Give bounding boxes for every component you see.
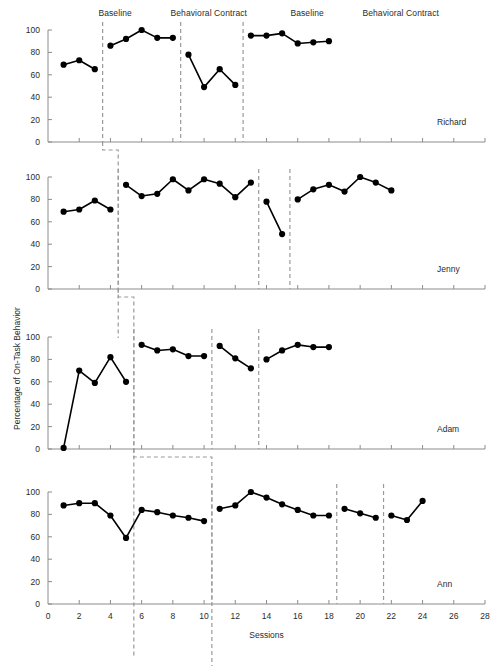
data-point xyxy=(295,196,301,202)
data-point xyxy=(388,187,394,193)
y-tick-label: 60 xyxy=(14,70,40,80)
data-line-adam-seg1 xyxy=(64,357,126,448)
data-point xyxy=(154,191,160,197)
data-point xyxy=(92,500,98,506)
data-point xyxy=(185,515,191,521)
phase-label-1: Baseline xyxy=(98,8,131,18)
data-point xyxy=(201,518,207,524)
x-tick-label: 6 xyxy=(132,611,152,621)
data-point xyxy=(154,35,160,41)
data-point xyxy=(295,342,301,348)
y-tick-label: 80 xyxy=(14,194,40,204)
data-point xyxy=(357,510,363,516)
data-point xyxy=(217,343,223,349)
data-point xyxy=(357,174,363,180)
phase-stagger-connector-1 xyxy=(103,142,119,338)
x-tick-label: 2 xyxy=(69,611,89,621)
y-tick-label: 80 xyxy=(14,509,40,519)
data-point xyxy=(123,182,129,188)
y-tick-label: 20 xyxy=(14,262,40,272)
data-point xyxy=(76,206,82,212)
data-point xyxy=(419,498,425,504)
data-point xyxy=(123,535,129,541)
data-point xyxy=(76,57,82,63)
data-point xyxy=(388,512,394,518)
data-point xyxy=(232,355,238,361)
data-point xyxy=(123,379,129,385)
data-line-jenny-seg3 xyxy=(267,202,283,234)
data-point xyxy=(92,66,98,72)
data-point xyxy=(279,231,285,237)
data-point xyxy=(295,40,301,46)
data-point xyxy=(170,512,176,518)
data-point xyxy=(248,180,254,186)
data-point xyxy=(232,194,238,200)
data-point xyxy=(217,506,223,512)
phase-label-3: Baseline xyxy=(290,8,323,18)
data-point xyxy=(373,515,379,521)
data-point xyxy=(232,82,238,88)
x-tick-label: 22 xyxy=(381,611,401,621)
data-point xyxy=(310,512,316,518)
chart-canvas xyxy=(0,0,499,666)
y-axis-title: Percentage of On-Task Behavior xyxy=(12,307,22,430)
y-tick-label: 40 xyxy=(14,239,40,249)
phase-label-2: Behavioral Contract xyxy=(170,8,247,18)
data-point xyxy=(201,176,207,182)
data-point xyxy=(263,33,269,39)
data-point xyxy=(92,197,98,203)
x-tick-label: 20 xyxy=(350,611,370,621)
data-point xyxy=(170,35,176,41)
data-point xyxy=(185,187,191,193)
data-point xyxy=(279,501,285,507)
data-point xyxy=(263,495,269,501)
data-point xyxy=(263,199,269,205)
x-tick-label: 8 xyxy=(163,611,183,621)
phase-label-4: Behavioral Contract xyxy=(362,8,439,18)
data-point xyxy=(310,186,316,192)
data-point xyxy=(248,489,254,495)
data-point xyxy=(326,38,332,44)
subject-label-adam: Adam xyxy=(437,424,459,434)
data-point xyxy=(185,353,191,359)
data-point xyxy=(248,365,254,371)
y-tick-label: 0 xyxy=(14,284,40,294)
data-point xyxy=(107,206,113,212)
multiple-baseline-chart: 020406080100Richard020406080100Jenny0204… xyxy=(0,0,499,666)
data-point xyxy=(404,517,410,523)
data-point xyxy=(232,502,238,508)
data-point xyxy=(61,62,67,68)
y-tick-label: 80 xyxy=(14,47,40,57)
x-tick-label: 10 xyxy=(194,611,214,621)
data-point xyxy=(295,507,301,513)
x-tick-label: 26 xyxy=(444,611,464,621)
data-point xyxy=(341,506,347,512)
data-line-richard-seg3 xyxy=(188,55,235,87)
data-point xyxy=(107,354,113,360)
data-point xyxy=(139,342,145,348)
data-point xyxy=(310,39,316,45)
y-tick-label: 100 xyxy=(14,487,40,497)
data-point xyxy=(139,507,145,513)
x-tick-label: 16 xyxy=(288,611,308,621)
y-tick-label: 100 xyxy=(14,172,40,182)
y-tick-label: 60 xyxy=(14,217,40,227)
phase-stagger-connector-3 xyxy=(134,449,212,666)
x-tick-label: 24 xyxy=(413,611,433,621)
data-point xyxy=(76,368,82,374)
data-point xyxy=(139,193,145,199)
y-tick-label: 20 xyxy=(14,115,40,125)
data-point xyxy=(170,176,176,182)
data-point xyxy=(154,509,160,515)
y-tick-label: 60 xyxy=(14,532,40,542)
y-tick-label: 40 xyxy=(14,92,40,102)
data-point xyxy=(201,84,207,90)
data-point xyxy=(123,36,129,42)
data-point xyxy=(217,181,223,187)
x-tick-label: 14 xyxy=(257,611,277,621)
data-point xyxy=(61,445,67,451)
x-tick-label: 4 xyxy=(100,611,120,621)
data-line-richard-seg4 xyxy=(251,33,329,43)
x-tick-label: 28 xyxy=(475,611,495,621)
subject-label-richard: Richard xyxy=(437,117,466,127)
